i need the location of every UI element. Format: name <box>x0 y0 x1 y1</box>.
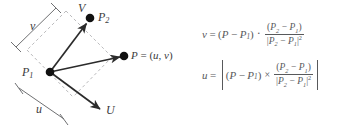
label-dimension-v: v <box>30 20 35 32</box>
label-dimension-u: u <box>36 103 42 115</box>
absolute-value-bar-left <box>222 60 223 90</box>
equation-u-denominator: |P2−P1|2 <box>274 74 313 87</box>
label-v-axis: V <box>78 2 85 14</box>
point-dot-p2 <box>86 14 95 23</box>
label-p1: P1 <box>22 66 33 78</box>
figure-canvas: P1 P2 V U v u P = (u, v) v = (P−P1) · (P… <box>0 0 337 132</box>
label-point-p-coordinates: P = (u, v) <box>131 50 173 61</box>
absolute-value-bar-right <box>317 60 318 90</box>
equation-v: v = (P−P1) · (P2−P1) |P2−P1|2 <box>202 22 337 47</box>
equation-v-numerator: (P2−P1) <box>265 22 304 34</box>
label-u-axis: U <box>106 104 115 116</box>
point-dot-p1 <box>46 68 55 77</box>
equation-u-numerator: (P2−P1) <box>274 62 313 74</box>
equations-block: v = (P−P1) · (P2−P1) |P2−P1|2 u = (P−P1)… <box>196 22 337 90</box>
dot-product-operator-icon: · <box>257 26 261 41</box>
equation-u-equals: = <box>210 69 216 81</box>
cross-product-operator-icon: × <box>264 69 270 80</box>
equation-v-equals: = <box>209 28 215 40</box>
equation-v-left-factor: (P−P1) <box>218 28 254 40</box>
equation-u: u = (P−P1) × (P2−P1) |P2−P1|2 <box>202 60 337 90</box>
label-p2: P2 <box>98 11 109 23</box>
dimension-bracket-v <box>11 3 61 52</box>
equation-u-fraction: (P2−P1) |P2−P1|2 <box>274 62 313 87</box>
equation-u-lhs: u <box>202 69 208 81</box>
equation-u-left-factor: (P−P1) <box>226 69 262 81</box>
equation-v-denominator: |P2−P1|2 <box>265 34 304 47</box>
vector-diagram: P1 P2 V U v u P = (u, v) <box>0 0 175 132</box>
equation-v-lhs: v <box>202 28 207 40</box>
point-dot-p <box>120 52 129 61</box>
equation-v-fraction: (P2−P1) |P2−P1|2 <box>265 22 304 47</box>
